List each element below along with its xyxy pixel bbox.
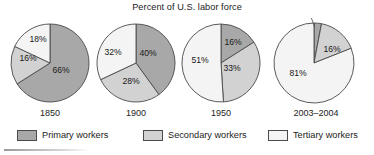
legend-item-primary-workers: Primary workers [17,126,108,144]
chart-legend: Primary workers Secondary workers Tertia… [0,126,374,146]
slice-label-primary-1900: 40% [139,48,157,58]
pie-chart-figure: Percent of U.S. labor force 66% 16% 18% … [0,0,374,155]
pie-year-label-1900: 1900 [91,108,181,118]
legend-swatch-secondary-icon [143,130,163,141]
pie-slices-2003-2004 [274,23,354,103]
footer-rule [4,149,90,151]
legend-swatch-primary-icon [17,130,37,141]
legend-label-secondary: Secondary workers [168,130,247,140]
pie-year-label-1850: 1850 [5,108,95,118]
slice-label-tertiary-2003-2004: 81% [289,68,307,78]
legend-item-tertiary-workers: Tertiary workers [268,126,358,144]
pie-slices-1900 [97,24,175,102]
legend-label-tertiary: Tertiary workers [293,130,358,140]
pie-svg-1900: 40% 28% 32% [91,18,181,108]
pie-chart-1900: 40% 28% 32% 1900 [91,18,181,126]
pie-svg-2003-2004: 3% 16% 81% [268,18,364,108]
slice-label-secondary-1850: 16% [19,53,37,63]
legend-label-primary: Primary workers [42,130,108,140]
pie-year-label-1950: 1950 [176,108,266,118]
pie-charts-row: 66% 16% 18% 1850 40% 28% 32% 1900 16% 33… [0,18,374,108]
pie-chart-1850: 66% 16% 18% 1850 [5,18,95,126]
legend-item-secondary-workers: Secondary workers [143,126,247,144]
pie-year-label-2003-2004: 2003–2004 [268,108,364,118]
slice-label-primary-1950: 16% [224,37,242,47]
slice-label-secondary-1950: 33% [223,63,241,73]
pie-svg-1850: 66% 16% 18% [5,18,95,108]
slice-label-tertiary-1900: 32% [104,47,122,57]
legend-swatch-tertiary-icon [268,130,288,141]
pie-chart-2003-2004: 3% 16% 81% 2003–2004 [268,18,358,126]
slice-label-secondary-2003-2004: 16% [323,44,341,54]
pie-svg-1950: 16% 33% 51% [176,18,266,108]
slice-label-tertiary-1850: 18% [29,34,47,44]
slice-label-secondary-1900: 28% [122,76,140,86]
slice-label-primary-1850: 66% [52,65,70,75]
slice-label-tertiary-1950: 51% [191,55,209,65]
chart-title: Percent of U.S. labor force [0,2,374,12]
pie-chart-1950: 16% 33% 51% 1950 [176,18,266,126]
